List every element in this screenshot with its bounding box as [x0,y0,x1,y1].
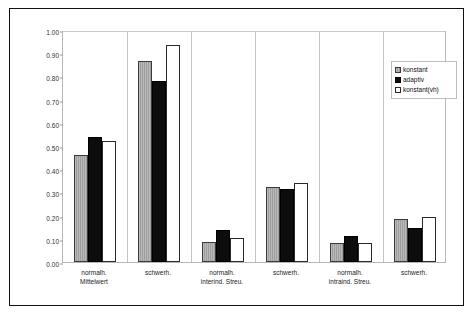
legend-item-konstant: konstant [395,65,453,74]
bar-group [63,32,127,262]
legend-swatch-adaptiv [395,77,401,83]
y-tick-label: 0.50 [46,145,59,152]
bar-adaptiv [408,228,422,262]
plot-area: 0.000.100.200.300.400.500.600.700.800.90… [62,31,446,263]
x-axis-category-label: schwerh. [382,268,446,277]
bar-adaptiv [216,230,230,262]
legend-swatch-konstant [395,67,401,73]
category-label-line1: normalh. [81,269,106,276]
legend-label-konstantvh: konstant(vh) [403,86,439,93]
bar-group [319,32,383,262]
legend-item-adaptiv: adaptiv [395,75,453,84]
category-label-line1: schwerh. [273,269,299,276]
legend-item-konstantvh: konstant(vh) [395,85,453,94]
y-tick-label: 0.60 [46,121,59,128]
x-axis-category-label: normalh.Mittelwert [62,268,126,286]
legend-swatch-konstantvh [395,87,401,93]
category-label-line1: normalh. [209,269,234,276]
y-tick-label: 0.10 [46,237,59,244]
chart-legend: konstantadaptivkonstant(vh) [391,61,457,99]
bar-group [255,32,319,262]
bar-konstantvh [230,238,244,262]
category-label-line2: interind. Streu. [190,277,254,286]
category-label-line1: normalh. [337,269,362,276]
bar-konstant [74,155,88,262]
legend-label-konstant: konstant [403,66,428,73]
y-tick-label: 0.00 [46,261,59,268]
y-tick-label: 0.40 [46,168,59,175]
x-axis-category-label: schwerh. [254,268,318,277]
bar-konstantvh [166,45,180,262]
figure-frame: Steigung [cu/dB] 0.000.100.200.300.400.5… [9,8,464,306]
y-tick-label: 1.00 [46,29,59,36]
bar-konstantvh [102,141,116,262]
y-tick-label: 0.20 [46,214,59,221]
category-label-line1: schwerh. [145,269,171,276]
y-tick-label: 0.30 [46,191,59,198]
category-label-line2: Mittelwert [62,277,126,286]
bar-konstantvh [294,183,308,262]
bar-konstant [202,242,216,262]
x-axis-category-label: normalh.intraind. Streu. [318,268,382,286]
bar-konstant [330,243,344,262]
bar-adaptiv [88,137,102,262]
y-tick-label: 0.70 [46,98,59,105]
bar-konstant [266,187,280,262]
category-label-line2: intraind. Streu. [318,277,382,286]
bar-chart: Steigung [cu/dB] 0.000.100.200.300.400.5… [10,9,463,305]
x-axis-category-label: schwerh. [126,268,190,277]
bar-konstantvh [422,217,436,262]
bar-group [191,32,255,262]
bar-konstantvh [358,243,372,262]
bar-adaptiv [280,189,294,262]
bar-adaptiv [344,236,358,262]
bar-group [127,32,191,262]
y-tick-mark [60,264,63,265]
x-axis-category-label: normalh.interind. Streu. [190,268,254,286]
y-tick-label: 0.80 [46,75,59,82]
category-label-line1: schwerh. [401,269,427,276]
legend-label-adaptiv: adaptiv [403,76,424,83]
bar-konstant [394,219,408,262]
bar-konstant [138,61,152,262]
y-tick-label: 0.90 [46,52,59,59]
bar-adaptiv [152,81,166,262]
